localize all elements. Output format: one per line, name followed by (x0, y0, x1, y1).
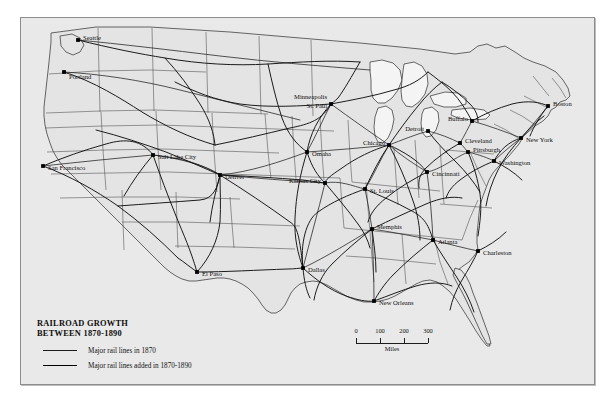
legend-title-line2: BETWEEN 1870-1890 (37, 329, 267, 339)
scale-tick-mark (404, 338, 405, 343)
railroad-growth-map-figure: SeattlePortlandSan FranciscoSalt Lake Ci… (0, 0, 611, 403)
scale-unit-label: Miles (356, 345, 428, 352)
scale-tick-labels: 0100200300 (356, 327, 446, 336)
legend-line-sample-1870-1890 (43, 365, 77, 366)
scale-tick-label: 0 (354, 327, 357, 334)
legend-line-sample-1870 (43, 350, 77, 351)
scale-tick-mark (380, 338, 381, 343)
legend-title-line1: RAILROAD GROWTH (37, 319, 267, 329)
scale-tick-mark (356, 338, 357, 343)
legend-label-1870-1890: Major rail lines added in 1870-1890 (88, 362, 192, 370)
scale-tick-label: 100 (375, 327, 385, 334)
scale-tick-label: 300 (423, 327, 433, 334)
legend-label-1870: Major rail lines in 1870 (88, 347, 156, 355)
map-scale-bar: 0100200300 Miles (356, 327, 446, 352)
legend-entry-1870: Major rail lines in 1870 (37, 347, 267, 355)
legend-entry-1870-1890: Major rail lines added in 1870-1890 (37, 362, 267, 370)
scale-tick-label: 200 (399, 327, 409, 334)
scale-bar-line (356, 337, 428, 344)
map-legend: RAILROAD GROWTH BETWEEN 1870-1890 Major … (37, 319, 267, 370)
scale-tick-mark (428, 338, 429, 343)
